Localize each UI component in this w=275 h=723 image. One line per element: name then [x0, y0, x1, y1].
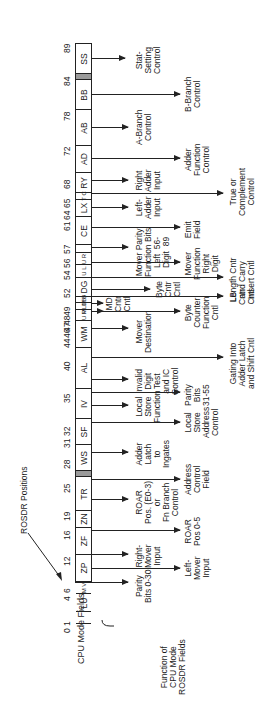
- arrow-icon: [92, 530, 180, 531]
- brace-label: Function of CPU Mode ROSDR Fields: [160, 639, 187, 695]
- function-label: Mover Function Right Digit: [184, 248, 220, 281]
- field-cell: AL: [76, 348, 91, 389]
- field-cell: SS: [76, 44, 91, 74]
- function-label: LB Cntr Cntl: [229, 289, 256, 305]
- field-cell: U P: [76, 310, 91, 321]
- function-label: Local Store Function: [135, 391, 162, 424]
- field-label: CE: [79, 225, 88, 237]
- function-label: Gating Into Adder Latch and Shift Cntl: [229, 338, 256, 389]
- field-cell: ZP: [76, 555, 91, 582]
- field-cell: ZN: [76, 511, 91, 528]
- field-cell: SF: [76, 419, 91, 445]
- field-label: M V: [81, 582, 87, 593]
- field-label: U L: [81, 266, 87, 275]
- field-cell: U L: [76, 265, 91, 278]
- field-cell: LX: [76, 200, 91, 217]
- arrow-icon: [92, 158, 180, 159]
- arrow-icon: [92, 94, 180, 95]
- field-label: ZP: [79, 563, 88, 574]
- function-label: Byte Counter Function Cntl: [184, 297, 220, 330]
- position-number: 35: [62, 394, 72, 403]
- arrow-icon: [92, 328, 128, 329]
- position-number: 6: [62, 588, 72, 593]
- field-label: TR: [79, 488, 88, 499]
- field-label: SF: [79, 426, 88, 437]
- position-number: 57: [62, 245, 72, 254]
- arrow-icon: [92, 277, 223, 278]
- function-label: Right- Mover Input: [135, 544, 162, 568]
- arrow-icon: [92, 405, 128, 406]
- field-cell: WS: [76, 445, 91, 471]
- position-number: 61: [62, 222, 72, 231]
- field-cell: AD: [76, 146, 91, 173]
- field-label: LX: [79, 203, 88, 213]
- position-number: 78: [62, 112, 72, 121]
- function-label: Parity Bits 0-30: [135, 569, 153, 603]
- field-cell: CE: [76, 217, 91, 245]
- field-cell: AB: [76, 110, 91, 146]
- arrow-icon: [92, 193, 223, 194]
- rosdr-field-bar: SSBBABADRYT CLXCEU RU LDGM BMLDBU PWMALI…: [75, 43, 92, 583]
- position-number: 12: [62, 557, 72, 566]
- function-label: True or Complement Control: [229, 168, 256, 216]
- arrow-icon: [92, 207, 128, 208]
- arrow-icon: [92, 357, 223, 358]
- position-number: 44: [62, 339, 72, 348]
- field-label: ZF: [79, 536, 88, 546]
- position-number: 65: [62, 199, 72, 208]
- position-number: 84: [62, 77, 72, 86]
- function-label: Left- Adder Input: [135, 196, 162, 219]
- function-label: Adder Latch to Ingates: [135, 440, 171, 468]
- field-label: BB: [79, 89, 88, 100]
- field-cell: T C: [76, 193, 91, 200]
- function-label: MD Cntr Cntl: [105, 296, 132, 312]
- field-label: LU: [79, 597, 88, 608]
- arrow-icon: [92, 479, 180, 480]
- position-number: 19: [62, 512, 72, 521]
- function-label: Address Control Field: [184, 464, 211, 495]
- arrow-icon: [92, 582, 128, 583]
- field-label: WS: [79, 451, 88, 465]
- function-label: Local Store Address Control: [184, 407, 220, 438]
- field-cell: U R: [76, 253, 91, 265]
- function-label: Parity Bits 31-55: [184, 384, 211, 406]
- arrow-icon: [92, 554, 128, 555]
- function-label: B-Branch Control: [184, 77, 202, 112]
- field-cell: WM: [76, 321, 91, 348]
- position-number: 40: [62, 362, 72, 371]
- field-cell: TR: [76, 477, 91, 511]
- position-number: 16: [62, 531, 72, 540]
- function-label: Mover Destination: [135, 311, 153, 354]
- function-label: Mover Parity Function Bits Left 56- Digi…: [135, 228, 171, 277]
- position-number: 56: [62, 259, 72, 268]
- position-number: 0 1: [62, 621, 72, 633]
- position-number: 48: [62, 316, 72, 325]
- arrow-icon: [92, 379, 128, 380]
- field-label: AD: [79, 153, 88, 165]
- position-number: 31: [62, 439, 72, 448]
- function-label: Right Adder Input: [135, 169, 162, 192]
- field-label: AB: [79, 122, 88, 133]
- field-label: ZN: [79, 513, 88, 524]
- field-cell: [76, 245, 91, 253]
- field-label: U P: [81, 310, 87, 320]
- arrow-icon: [92, 303, 103, 304]
- field-label: SS: [79, 53, 88, 64]
- rosdr-positions-label: ROSDR Positions: [20, 466, 29, 534]
- field-label: U R: [81, 253, 87, 263]
- field-cell: M V: [76, 582, 91, 594]
- function-label: Emit Field: [184, 220, 202, 238]
- field-label: AL: [79, 363, 88, 373]
- arrow-icon: [92, 289, 150, 290]
- field-cell: [76, 612, 91, 624]
- position-number: 89: [62, 44, 72, 53]
- function-label: Adder Function Control: [184, 144, 211, 177]
- brace-icon: [100, 618, 114, 723]
- field-label: RY: [79, 177, 88, 189]
- field-label: IV: [79, 399, 88, 407]
- position-number: 4: [62, 596, 72, 601]
- position-number: 28: [62, 460, 72, 469]
- arrow-icon: [92, 180, 128, 181]
- function-label: ROAR Pos. (E0-3) or Fn Branch Control: [135, 481, 180, 524]
- position-number: 68: [62, 180, 72, 189]
